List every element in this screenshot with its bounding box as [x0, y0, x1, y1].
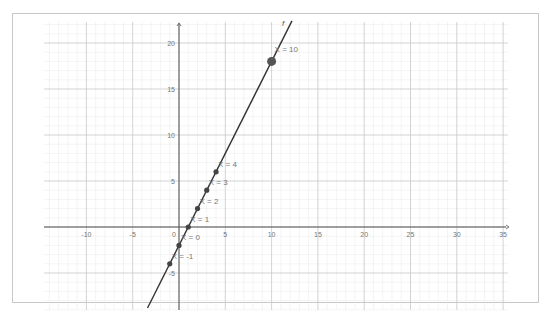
point-label: X = 1 [190, 215, 209, 224]
tick-labels: -10-505101520253035-55101520 [81, 40, 507, 277]
y-tick-label: 15 [167, 86, 175, 93]
y-tick-label: -5 [169, 270, 175, 277]
data-point[interactable] [186, 224, 191, 229]
x-tick-label: 30 [453, 231, 461, 238]
point-label: X = 2 [200, 197, 219, 206]
point-label: X = 4 [218, 160, 237, 169]
point-label: X = 3 [209, 178, 228, 187]
axes [44, 23, 509, 310]
data-point[interactable] [204, 188, 209, 193]
point-label: X = 0 [181, 233, 200, 242]
point-label: X = 10 [275, 45, 299, 54]
y-tick-label: 5 [171, 178, 175, 185]
data-point[interactable] [267, 57, 276, 66]
y-tick-label: 10 [167, 132, 175, 139]
x-tick-label: -10 [81, 231, 91, 238]
data-point[interactable] [176, 243, 181, 248]
x-tick-label: 0 [172, 231, 176, 238]
x-tick-label: 5 [223, 231, 227, 238]
data-point[interactable] [213, 169, 218, 174]
x-tick-label: 15 [314, 231, 322, 238]
data-point[interactable] [167, 261, 172, 266]
x-tick-label: 10 [268, 231, 276, 238]
minor-grid [44, 22, 508, 310]
y-tick-label: 20 [167, 40, 175, 47]
graph-canvas[interactable]: -10-505101520253035-55101520 f X = -1X =… [0, 0, 550, 324]
x-tick-label: 20 [360, 231, 368, 238]
function-label: f [282, 19, 285, 28]
x-tick-label: 25 [407, 231, 415, 238]
x-tick-label: 35 [499, 231, 507, 238]
x-tick-label: -5 [130, 231, 136, 238]
point-label: X = -1 [172, 252, 194, 261]
points[interactable]: X = -1X = 0X = 1X = 2X = 3X = 4X = 10 [167, 45, 298, 266]
data-point[interactable] [195, 206, 200, 211]
